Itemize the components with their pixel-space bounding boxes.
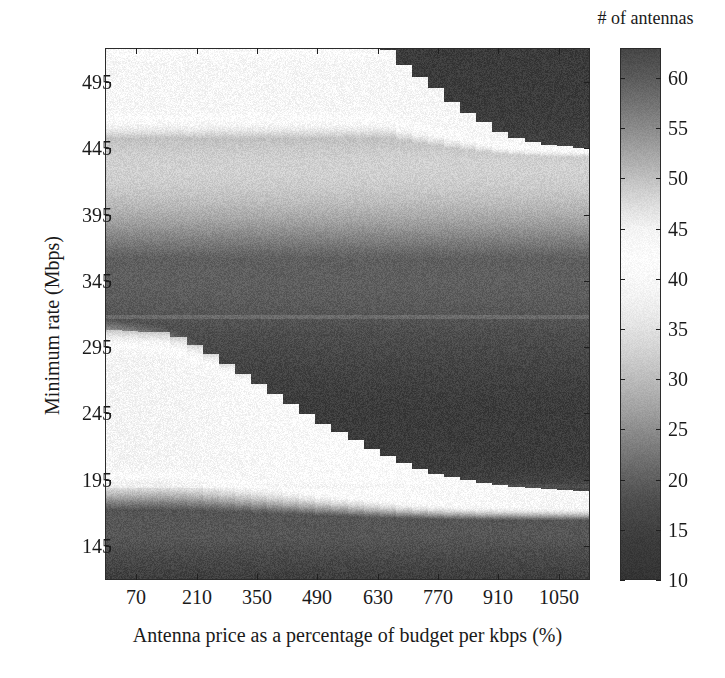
colorbar-tick: [656, 128, 661, 129]
colorbar-tick: [620, 329, 625, 330]
colorbar-tick: [656, 480, 661, 481]
y-axis-tick-label: 245: [82, 403, 112, 423]
colorbar-tick-label: 30: [668, 369, 688, 389]
y-axis-tick-label: 495: [82, 72, 112, 92]
colorbar-tick: [656, 580, 661, 581]
x-axis-tick-top: [378, 48, 379, 54]
colorbar-tick: [620, 480, 625, 481]
colorbar-tick-label: 25: [668, 419, 688, 439]
colorbar: [620, 48, 661, 580]
colorbar-tick: [620, 580, 625, 581]
x-axis-tick-label: 490: [302, 586, 332, 608]
y-axis-tick-right: [584, 215, 590, 216]
colorbar-tick: [656, 178, 661, 179]
colorbar-gradient: [621, 49, 660, 579]
y-axis-tick-label: 295: [82, 337, 112, 357]
colorbar-tick: [656, 279, 661, 280]
colorbar-tick-label: 40: [668, 269, 688, 289]
colorbar-tick: [656, 429, 661, 430]
heatmap-figure: # of antennas Minimum rate (Mbps) Antenn…: [0, 0, 725, 678]
colorbar-tick: [620, 128, 625, 129]
y-axis-tick-right: [584, 480, 590, 481]
x-axis-title: Antenna price as a percentage of budget …: [105, 624, 590, 647]
y-axis-tick-right: [584, 148, 590, 149]
y-axis-tick-label: 395: [82, 205, 112, 225]
x-axis-tick-label: 70: [126, 586, 146, 608]
y-axis-tick-right: [584, 413, 590, 414]
x-axis-tick-label: 910: [483, 586, 513, 608]
x-axis-tick: [317, 574, 318, 580]
colorbar-tick: [620, 530, 625, 531]
colorbar-tick: [656, 530, 661, 531]
colorbar-tick-label: 15: [668, 520, 688, 540]
colorbar-tick: [620, 379, 625, 380]
x-axis-tick: [197, 574, 198, 580]
x-axis-tick: [136, 574, 137, 580]
x-axis-tick: [438, 574, 439, 580]
x-axis-tick-top: [498, 48, 499, 54]
colorbar-tick-label: 10: [668, 570, 688, 590]
x-axis-tick-label: 630: [363, 586, 393, 608]
colorbar-tick: [656, 329, 661, 330]
colorbar-tick-label: 45: [668, 219, 688, 239]
colorbar-tick: [620, 229, 625, 230]
y-axis-tick-label: 195: [82, 470, 112, 490]
x-axis-tick: [378, 574, 379, 580]
x-axis-tick-top: [197, 48, 198, 54]
y-axis-tick-label: 145: [82, 536, 112, 556]
colorbar-title: # of antennas: [566, 8, 725, 29]
colorbar-tick-label: 50: [668, 168, 688, 188]
x-axis-tick-label: 1050: [539, 586, 579, 608]
x-axis-tick-top: [559, 48, 560, 54]
x-axis-tick-top: [136, 48, 137, 54]
colorbar-tick: [656, 78, 661, 79]
y-axis-tick-right: [584, 82, 590, 83]
colorbar-tick-label: 55: [668, 118, 688, 138]
y-axis-tick-right: [584, 347, 590, 348]
colorbar-tick: [620, 279, 625, 280]
x-axis-tick-label: 210: [182, 586, 212, 608]
colorbar-tick: [620, 429, 625, 430]
x-axis-tick: [498, 574, 499, 580]
x-axis-tick: [559, 574, 560, 580]
y-axis-tick-label: 445: [82, 138, 112, 158]
heatmap-image: [106, 49, 589, 579]
x-axis-tick-label: 350: [242, 586, 272, 608]
heatmap-plot-area: [105, 48, 590, 580]
x-axis-tick-top: [317, 48, 318, 54]
colorbar-tick-label: 35: [668, 319, 688, 339]
y-axis-tick-right: [584, 281, 590, 282]
colorbar-tick-label: 60: [668, 68, 688, 88]
x-axis-tick-label: 770: [423, 586, 453, 608]
colorbar-tick-label: 20: [668, 470, 688, 490]
colorbar-tick: [620, 178, 625, 179]
x-axis-tick-top: [257, 48, 258, 54]
colorbar-tick: [620, 78, 625, 79]
y-axis-tick-label: 345: [82, 271, 112, 291]
y-axis-title: Minimum rate (Mbps): [41, 146, 64, 506]
y-axis-tick-right: [584, 546, 590, 547]
x-axis-tick: [257, 574, 258, 580]
colorbar-tick: [656, 229, 661, 230]
colorbar-tick: [656, 379, 661, 380]
x-axis-tick-top: [438, 48, 439, 54]
